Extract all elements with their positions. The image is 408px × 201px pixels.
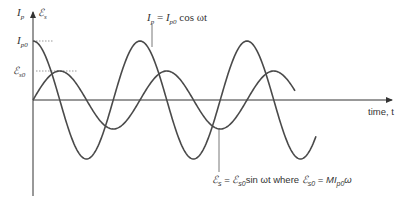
tick-label-ip0: Ip0 — [17, 35, 28, 49]
diagram-canvas — [0, 0, 408, 201]
primary-current-equation: Ip = Ip0 cos ωt — [147, 12, 207, 26]
secondary-emf-equation: ℰs = ℰs0sin ωt where ℰs0 = MIp0ω — [212, 175, 352, 187]
y-label-ip: Ip — [17, 7, 24, 21]
x-axis-label: time, t — [368, 107, 394, 117]
tick-label-es0: ℰs0 — [13, 65, 25, 79]
y-label-es: ℰs — [38, 7, 47, 21]
